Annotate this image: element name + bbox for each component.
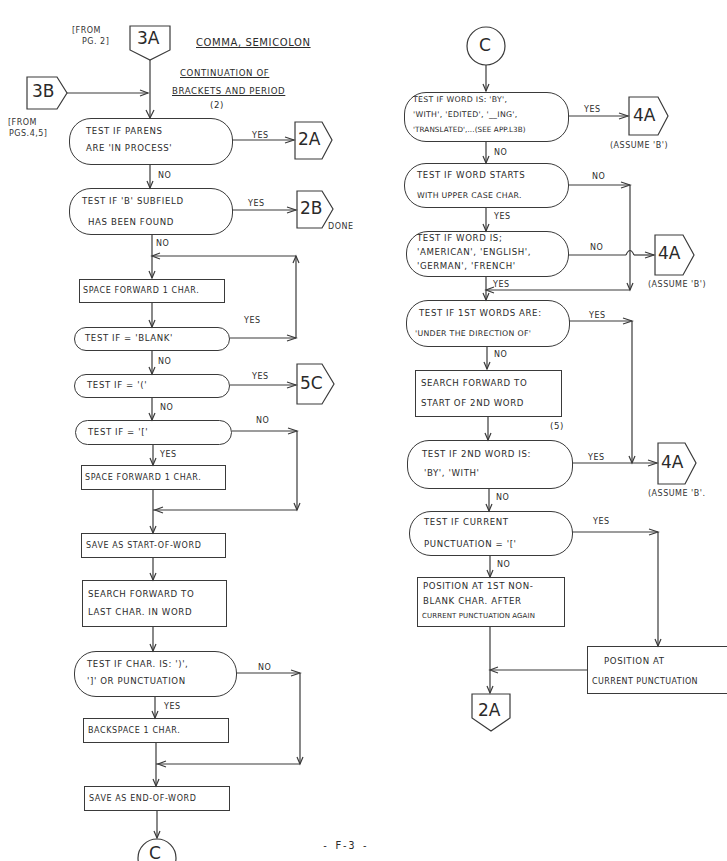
decision-text: TEST IF = '[' [88,423,148,442]
edge-label-yes: YES [164,697,181,716]
edge-label-no: NO [160,398,173,417]
connector-4a-3[interactable]: 4A [661,452,683,472]
process-position-current[interactable]: POSITION AT CURRENT PUNCTUATION [587,646,727,694]
step-number-5: (5) [550,420,564,432]
decision-text-line: TEST IF 'B' SUBFIELD [82,192,184,211]
from-pg2-note-1: [FROM [72,26,101,35]
process-text-line: LAST CHAR. IN WORD [88,603,192,622]
edge-label-no: NO [592,167,605,186]
connector-c-bottom[interactable]: C [149,843,161,861]
decision-text-line: 'TRANSLATED',...(SEE APP.L3B) [413,120,526,139]
process-text-line: CURRENT PUNCTUATION [592,672,698,691]
done-note: DONE [328,222,354,231]
edge-label-no: NO [258,658,271,677]
decision-text-line: TEST IF 1ST WORDS ARE: [419,304,542,323]
connector-5c[interactable]: 5C [300,373,323,393]
decision-current-punctuation-bracket[interactable]: TEST IF CURRENT PUNCTUATION = '[' [409,511,573,556]
edge-label-no: NO [497,555,510,574]
process-text-line: SEARCH FORWARD TO [421,374,527,393]
decision-text-line: 'BY', 'WITH' [424,464,480,483]
decision-text-line: ']' OR PUNCTUATION [87,672,186,691]
edge-label-yes: YES [493,275,510,294]
edge-label-yes: YES [252,367,269,386]
subtitle-line-2: BRACKETS AND PERIOD [172,85,285,97]
decision-parens-in-process[interactable]: TEST IF PARENS ARE 'IN PROCESS' [69,118,233,165]
process-text-line: START OF 2ND WORD [421,394,524,413]
edge-label-no: NO [496,488,509,507]
process-save-start-of-word[interactable]: SAVE AS START-OF-WORD [81,533,226,558]
decision-char-is-paren-bracket[interactable]: TEST IF CHAR. IS: ')', ']' OR PUNCTUATIO… [74,651,237,697]
edge-label-no: NO [494,143,507,162]
process-space-forward-2[interactable]: SPACE FORWARD 1 CHAR. [81,465,226,490]
decision-word-starts-upper[interactable]: TEST IF WORD STARTS WITH UPPER CASE CHAR… [404,163,569,208]
page-number: - F-3 - [322,836,368,855]
edge-label-yes: YES [584,100,601,119]
decision-text-line: HAS BEEN FOUND [88,213,174,232]
connector-c-top[interactable]: C [479,35,491,55]
decision-text-line: ARE 'IN PROCESS' [86,139,172,158]
connector-3b[interactable]: 3B [32,81,54,101]
decision-text-line: TEST IF CURRENT [424,513,509,532]
decision-test-open-bracket[interactable]: TEST IF = '[' [75,420,232,445]
edge-label-yes: YES [589,306,606,325]
process-text: SAVE AS END-OF-WORD [89,789,196,808]
edge-label-no: NO [156,234,169,253]
edge-label-yes: YES [160,445,177,464]
process-backspace[interactable]: BACKSPACE 1 CHAR. [83,718,229,743]
assume-b-note-1: (ASSUME 'B') [610,141,668,150]
process-text: BACKSPACE 1 CHAR. [88,721,180,740]
decision-under-the-direction-of[interactable]: TEST IF 1ST WORDS ARE: 'UNDER THE DIRECT… [406,300,570,347]
decision-text: TEST IF = '(' [87,376,147,395]
edge-label-no: NO [494,345,507,364]
connector-2b[interactable]: 2B [300,198,322,218]
decision-text-line: TEST IF WORD STARTS [417,166,525,185]
process-text-line: SEARCH FORWARD TO [88,585,194,604]
from-pgs-note-1: [FROM [8,118,37,127]
edge-label-yes: YES [252,126,269,145]
connector-2a-bottom[interactable]: 2A [478,700,500,720]
edge-label-yes: YES [588,448,605,467]
subtitle-line-1: CONTINUATION OF [180,67,269,79]
edge-label-yes: YES [593,512,610,531]
edge-label-no: NO [158,166,171,185]
edge-label-yes: YES [494,207,511,226]
decision-2nd-word-by-with[interactable]: TEST IF 2ND WORD IS: 'BY', 'WITH' [407,440,573,489]
process-text: SAVE AS START-OF-WORD [86,536,201,555]
decision-text-line: TEST IF 2ND WORD IS: [422,445,531,464]
process-position-nonblank[interactable]: POSITION AT 1ST NON- BLANK CHAR. AFTER C… [417,577,565,627]
process-save-end-of-word[interactable]: SAVE AS END-OF-WORD [84,786,230,811]
page-title: COMMA, SEMICOLON [196,33,311,52]
connector-4a-1[interactable]: 4A [633,105,655,125]
process-text: SPACE FORWARD 1 CHAR. [83,281,199,300]
process-text-line: POSITION AT [604,652,665,671]
connector-4a-2[interactable]: 4A [658,243,680,263]
connector-3a[interactable]: 3A [137,28,159,48]
process-text-line: CURRENT PUNCTUATION AGAIN [422,607,535,626]
process-search-2nd-word[interactable]: SEARCH FORWARD TO START OF 2ND WORD [415,370,562,417]
decision-text: TEST IF = 'BLANK' [85,329,173,348]
from-pg2-note-2: PG. 2] [82,37,109,46]
edge-label-no: NO [590,238,603,257]
connector-2a-top[interactable]: 2A [298,129,320,149]
process-search-last-char[interactable]: SEARCH FORWARD TO LAST CHAR. IN WORD [82,580,227,627]
step-number-2: (2) [210,99,224,111]
edge-label-no: NO [158,352,171,371]
from-pgs-note-2: PGS.4,5] [9,129,48,138]
process-text: SPACE FORWARD 1 CHAR. [85,468,201,487]
assume-b-note-3: (ASSUME 'B'. [648,489,706,498]
decision-word-is-by-with[interactable]: TEST IF WORD IS: 'BY', 'WITH', 'EDITED',… [404,92,569,142]
edge-label-no: NO [256,411,269,430]
process-space-forward-1[interactable]: SPACE FORWARD 1 CHAR. [79,279,225,303]
decision-text-line: PUNCTUATION = '[' [424,535,517,554]
decision-b-subfield-found[interactable]: TEST IF 'B' SUBFIELD HAS BEEN FOUND [69,188,233,235]
edge-label-yes: YES [244,311,261,330]
decision-word-is-language[interactable]: TEST IF WORD IS; 'AMERICAN', 'ENGLISH', … [406,231,569,277]
decision-text-line: 'GERMAN', 'FRENCH' [417,257,516,276]
decision-test-blank[interactable]: TEST IF = 'BLANK' [74,327,230,351]
decision-test-open-paren[interactable]: TEST IF = '(' [74,374,230,398]
decision-text-line: 'UNDER THE DIRECTION OF' [415,324,531,343]
assume-b-note-2: (ASSUME 'B') [648,280,706,289]
edge-label-yes: YES [248,194,265,213]
decision-text-line: WITH UPPER CASE CHAR. [417,186,522,205]
